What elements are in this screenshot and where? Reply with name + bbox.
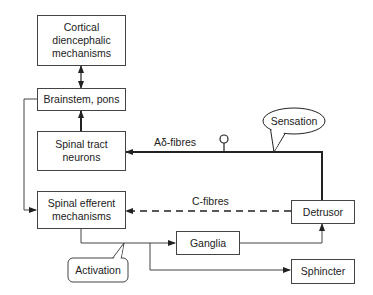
a-delta-fibres-label: Aδ-fibres [154, 136, 196, 148]
node-ganglia: Ganglia [176, 231, 240, 255]
efferent-to-ganglia-arrow [81, 228, 175, 243]
node-sphincter: Sphincter [291, 259, 355, 284]
node-detrusor-label: Detrusor [303, 206, 343, 219]
node-cortical-line1: Cortical [52, 21, 111, 34]
ganglia-to-detrusor-arrow [239, 224, 322, 243]
node-spinal-tract-line2: neurons [55, 151, 108, 164]
node-cortical-line3: mechanisms [52, 47, 111, 60]
node-ganglia-label: Ganglia [190, 237, 226, 250]
node-brainstem-label: Brainstem, pons [44, 93, 120, 106]
a-delta-fibres-arrow [126, 152, 322, 200]
receptor-icon [220, 135, 228, 143]
node-spinal-efferent-line2: mechanisms [48, 210, 116, 223]
node-spinal-tract: Spinal tract neurons [37, 131, 126, 171]
node-sphincter-label: Sphincter [301, 265, 345, 278]
node-cortical: Cortical diencephalic mechanisms [37, 15, 126, 66]
c-fibres-label: C-fibres [192, 195, 229, 207]
node-spinal-tract-line1: Spinal tract [55, 138, 108, 151]
activation-label: Activation [75, 264, 121, 276]
node-spinal-efferent: Spinal efferent mechanisms [37, 191, 126, 229]
node-cortical-line2: diencephalic [52, 34, 111, 47]
sensation-callout: Sensation [263, 108, 325, 134]
node-detrusor: Detrusor [291, 200, 355, 224]
node-brainstem: Brainstem, pons [37, 88, 126, 111]
activation-callout: Activation [68, 258, 128, 282]
node-spinal-efferent-line1: Spinal efferent [48, 197, 116, 210]
brainstem-to-efferent-arrow [24, 99, 37, 210]
sensation-label: Sensation [271, 115, 318, 127]
